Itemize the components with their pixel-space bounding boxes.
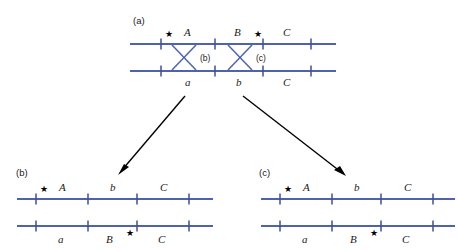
panel-c-top-label-C: C (404, 181, 412, 193)
panel-c-label: (c) (259, 167, 270, 178)
panel-b-top-label-A: A (58, 181, 66, 193)
panel-c-top-label-A: A (302, 181, 310, 193)
panel-a-bottom-label-a: a (185, 76, 191, 88)
panel-b-bottom-label-C: C (158, 233, 166, 245)
panel-a-top-star-2-icon: ★ (254, 29, 262, 39)
genetic-recombination-figure: (a) (b) (c) ★ A B ★ C a (0, 0, 458, 251)
panel-a: (a) (b) (c) ★ A B ★ C a (130, 15, 336, 88)
arrow-to-panel-b (118, 96, 185, 175)
panel-a-label: (a) (133, 15, 145, 26)
panel-c-top-star-icon: ★ (284, 184, 292, 194)
panel-a-top-label-B: B (234, 26, 241, 38)
arrow-c-shaft (243, 96, 341, 172)
panel-a-top-star-1-icon: ★ (165, 29, 173, 39)
panel-a-top-label-A: A (183, 26, 191, 38)
panel-c: (c) ★ A b C a B ★ C (259, 167, 455, 245)
panel-a-top-label-C: C (283, 26, 291, 38)
arrow-to-panel-c (243, 96, 346, 176)
crossover-b-label: (b) (200, 53, 211, 63)
panel-b-bottom-star-icon: ★ (126, 228, 134, 238)
figure-canvas: (a) (b) (c) ★ A B ★ C a (0, 0, 458, 251)
panel-c-bottom-label-C: C (402, 233, 410, 245)
panel-b-top-star-icon: ★ (40, 184, 48, 194)
panel-b-top-label-b: b (110, 181, 116, 193)
panel-c-bottom-star-icon: ★ (370, 228, 378, 238)
arrow-b-shaft (122, 96, 185, 170)
panel-a-bottom-label-b: b (236, 76, 242, 88)
crossover-x-b (172, 45, 196, 70)
panel-b-bottom-label-B: B (106, 233, 113, 245)
panel-a-bottom-label-C: C (283, 76, 291, 88)
crossover-x-c (228, 45, 252, 70)
panel-b: (b) ★ A b C a B ★ C (16, 167, 213, 245)
panel-c-bottom-label-B: B (350, 233, 357, 245)
panel-b-top-label-C: C (160, 181, 168, 193)
panel-b-bottom-label-a: a (58, 233, 64, 245)
panel-c-bottom-label-a: a (302, 233, 308, 245)
panel-b-label: (b) (16, 167, 28, 178)
arrow-b-head-icon (118, 164, 129, 175)
panel-c-top-label-b: b (354, 181, 360, 193)
crossover-c-label: (c) (256, 53, 266, 63)
